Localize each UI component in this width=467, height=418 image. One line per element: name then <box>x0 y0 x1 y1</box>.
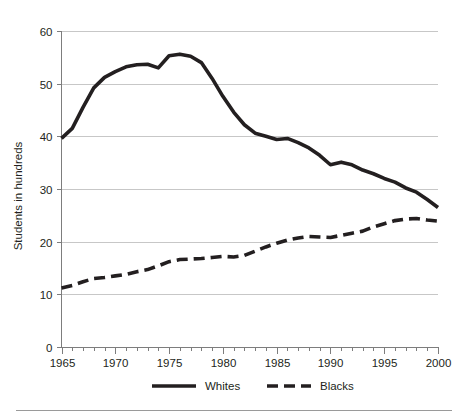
y-tick-label-60: 60 <box>40 26 53 38</box>
x-tick-label-1965: 1965 <box>50 357 76 369</box>
y-tick-label-0: 0 <box>46 342 52 354</box>
legend-label-blacks: Blacks <box>320 380 354 392</box>
chart-canvas: 0102030405060 19651970197519801985199019… <box>0 0 467 418</box>
legend-label-whites: Whites <box>205 380 240 392</box>
line-chart: 0102030405060 19651970197519801985199019… <box>0 0 467 418</box>
y-tick-label-30: 30 <box>40 184 53 196</box>
x-tick-label-1975: 1975 <box>157 357 183 369</box>
x-tick-label-1985: 1985 <box>265 357 291 369</box>
y-tick-label-40: 40 <box>40 131 53 143</box>
x-tick-label-1990: 1990 <box>318 357 344 369</box>
chart-background <box>0 0 467 418</box>
y-tick-label-10: 10 <box>40 289 53 301</box>
y-tick-label-50: 50 <box>40 79 53 91</box>
x-tick-label-2000: 2000 <box>426 357 452 369</box>
x-tick-label-1980: 1980 <box>211 357 237 369</box>
x-tick-label-1970: 1970 <box>103 357 129 369</box>
y-tick-label-20: 20 <box>40 237 53 249</box>
x-tick-label-1995: 1995 <box>372 357 398 369</box>
y-axis-title: Students in hundreds <box>12 141 24 250</box>
